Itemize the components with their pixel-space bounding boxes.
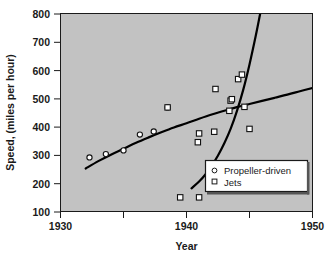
x-tick-label: 1930	[49, 220, 73, 232]
y-tick-label: 700	[32, 36, 50, 48]
data-point-jet	[212, 129, 217, 134]
data-point-jet	[213, 86, 218, 91]
data-point-jet	[165, 105, 170, 110]
y-tick-label: 100	[32, 206, 50, 218]
data-point-jet	[195, 140, 200, 145]
data-point-propeller	[121, 148, 126, 153]
y-tick-label: 600	[32, 65, 50, 77]
y-tick-label: 500	[32, 93, 50, 105]
legend-shadow	[207, 192, 309, 195]
data-point-jet	[242, 104, 247, 109]
chart-figure: 800 700 600 500 400 300 200 100 1930 194…	[0, 0, 332, 267]
legend-marker-propeller	[212, 168, 217, 173]
y-tick-label: 200	[32, 178, 50, 190]
data-point-jet	[196, 131, 201, 136]
legend-label-propeller: Propeller-driven	[224, 165, 291, 176]
data-point-propeller	[151, 129, 156, 134]
data-point-propeller	[87, 155, 92, 160]
data-point-jet	[227, 108, 232, 113]
data-point-jet	[178, 195, 183, 200]
y-tick-label: 800	[32, 8, 50, 20]
x-tick-label: 1950	[301, 220, 325, 232]
legend-label-jets: Jets	[224, 177, 242, 188]
data-point-jet	[247, 126, 252, 131]
data-point-jet	[239, 72, 244, 77]
data-point-jet	[196, 195, 201, 200]
data-point-propeller	[137, 132, 142, 137]
chart-legend: Propeller-driven Jets	[206, 161, 310, 195]
y-axis-title: Speed, (miles per hour)	[4, 54, 16, 171]
x-tick-label: 1940	[175, 220, 199, 232]
x-axis-title: Year	[175, 240, 197, 252]
legend-marker-jets	[212, 179, 217, 184]
legend-shadow-right	[307, 162, 310, 195]
data-point-jet	[229, 97, 234, 102]
speed-vs-year-scatter-chart: 800 700 600 500 400 300 200 100 1930 194…	[0, 0, 332, 267]
y-tick-label: 300	[32, 149, 50, 161]
data-point-propeller	[103, 151, 108, 156]
y-tick-label: 400	[32, 121, 50, 133]
